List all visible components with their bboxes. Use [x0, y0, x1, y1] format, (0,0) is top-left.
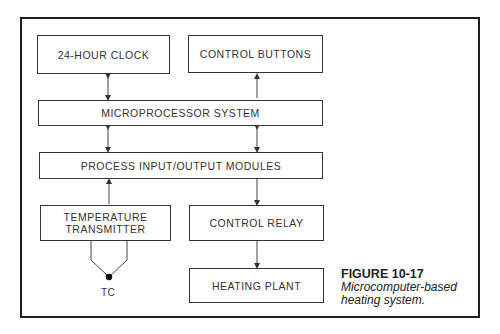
block-microprocessor-system: MICROPROCESSOR SYSTEM: [38, 100, 323, 126]
block-control-buttons: CONTROL BUTTONS: [188, 35, 323, 73]
block-label-line2: TRANSMITTER: [65, 223, 145, 235]
block-label-line1: TEMPERATURE: [63, 211, 147, 223]
thermocouple-leads: [91, 241, 127, 277]
figure-caption: FIGURE 10-17 Microcomputer-based heating…: [341, 268, 457, 307]
block-process-io-modules: PROCESS INPUT/OUTPUT MODULES: [39, 152, 323, 179]
block-control-relay: CONTROL RELAY: [189, 205, 324, 241]
block-heating-plant: HEATING PLANT: [189, 268, 324, 303]
block-24-hour-clock: 24-HOUR CLOCK: [37, 35, 170, 74]
figure-description-line2: heating system.: [341, 294, 457, 307]
block-label: 24-HOUR CLOCK: [58, 49, 150, 61]
thermocouple-label: TC: [101, 287, 115, 298]
block-label: CONTROL RELAY: [209, 217, 303, 229]
block-temperature-transmitter: TEMPERATURE TRANSMITTER: [40, 205, 171, 241]
block-label: HEATING PLANT: [212, 280, 301, 292]
block-label: PROCESS INPUT/OUTPUT MODULES: [81, 160, 282, 172]
thermocouple-junction-icon: [106, 274, 112, 280]
block-label: MICROPROCESSOR SYSTEM: [101, 107, 260, 119]
block-label: CONTROL BUTTONS: [200, 48, 311, 60]
